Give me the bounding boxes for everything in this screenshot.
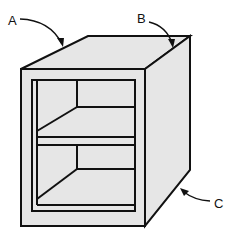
arrowhead-a-icon <box>57 38 64 47</box>
label-c: C <box>180 188 223 211</box>
label-a: A <box>8 13 64 47</box>
cabinet-diagram: A B C <box>0 0 234 239</box>
right-side-face <box>145 36 190 226</box>
cabinet-interior <box>32 80 135 211</box>
label-a-text: A <box>8 13 17 28</box>
arrow-a <box>20 19 62 44</box>
label-b-text: B <box>137 11 146 26</box>
arrow-c <box>184 192 210 201</box>
label-c-text: C <box>214 196 223 211</box>
